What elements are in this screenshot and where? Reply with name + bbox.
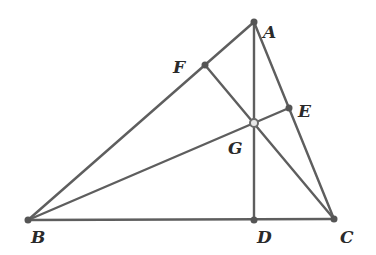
point-c <box>331 216 338 223</box>
label-d: D <box>256 227 272 247</box>
point-b <box>25 217 32 224</box>
label-a: A <box>261 22 276 42</box>
label-g: G <box>228 138 243 158</box>
altitude-cf <box>205 65 334 219</box>
point-a <box>251 19 258 26</box>
point-f <box>202 62 209 69</box>
label-c: C <box>340 227 354 247</box>
segment-ac <box>254 22 334 219</box>
labels: A B C D E F G <box>30 22 354 247</box>
point-e <box>286 105 293 112</box>
geometry-diagram: A B C D E F G <box>0 0 376 255</box>
points <box>25 19 338 224</box>
point-d <box>251 217 258 224</box>
point-g <box>250 119 258 127</box>
label-f: F <box>172 57 187 77</box>
segment-bc <box>28 219 334 220</box>
label-b: B <box>30 227 45 247</box>
segment-ab <box>28 22 254 220</box>
label-e: E <box>297 101 312 121</box>
segments <box>28 22 334 220</box>
